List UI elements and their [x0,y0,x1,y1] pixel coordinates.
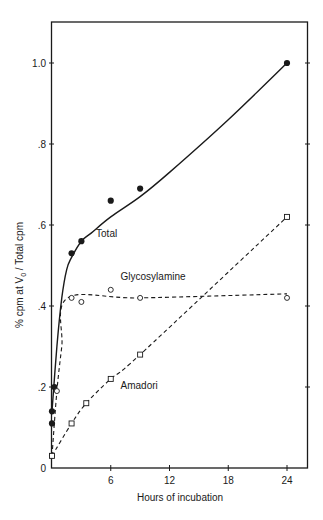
glycosylamine-point [108,287,113,292]
glycosylamine-line [52,294,287,456]
amadori-label: Amadori [121,380,158,391]
amadori-point [138,352,143,357]
total-point [284,60,290,66]
x-tick-label: 24 [281,475,293,486]
y-tick-label: 1.0 [32,58,46,69]
x-axis-title: Hours of incubation [137,492,223,503]
series-labels: TotalGlycosylamineAmadori [96,228,186,391]
total-label: Total [96,228,117,239]
amadori-point [285,214,290,219]
amadori-point [50,453,55,458]
x-tick-label: 6 [108,475,114,486]
total-point [78,238,84,244]
total-point [68,250,74,256]
glycosylamine-point [138,295,143,300]
glycosylamine-point [69,295,74,300]
amadori-point [108,376,113,381]
y-tick-label: .6 [38,220,47,231]
y-axis-title: % cpm at V0 / Total cpm [14,222,27,328]
y-axis-title-post: / Total cpm [14,222,25,273]
y-axis-title-pre: % cpm at V [14,277,25,328]
amadori-point [84,401,89,406]
plot-frame [52,22,308,468]
series-markers [49,60,290,458]
y-tick-label: .2 [38,382,47,393]
glycosylamine-point [54,389,59,394]
x-tick-label: 12 [164,475,176,486]
total-point [108,198,114,204]
total-point [49,408,55,414]
chart: 0.2.4.6.81.06121824 TotalGlycosylamineAm… [0,0,323,520]
amadori-point [69,421,74,426]
y-tick-label: 0 [40,463,46,474]
y-tick-label: .4 [38,301,47,312]
amadori-line [52,217,287,456]
total-line [52,63,287,411]
y-tick-label: .8 [38,139,47,150]
glycosylamine-point [285,295,290,300]
series-lines [52,63,287,456]
total-point [137,185,143,191]
glycosylamine-label: Glycosylamine [121,271,186,282]
glycosylamine-point [79,299,84,304]
total-point [49,420,55,426]
x-tick-label: 18 [223,475,235,486]
